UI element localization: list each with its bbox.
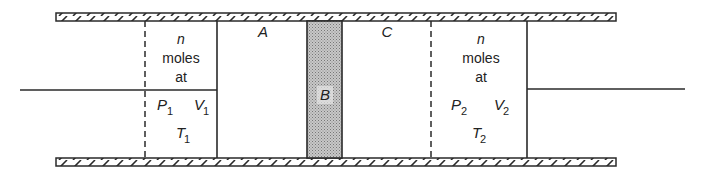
left-moles-label: moles — [162, 50, 199, 66]
left-at-label: at — [175, 69, 187, 85]
right-n-label: n — [477, 31, 485, 47]
region-b-label: B — [320, 86, 330, 103]
right-chamber-label: n moles at P 2 V 2 T 2 — [451, 31, 509, 145]
left-chamber-label: n moles at P 1 V 1 T 1 — [157, 31, 209, 145]
region-a-label: A — [257, 23, 268, 40]
left-pressure-symbol: P — [157, 96, 167, 113]
left-pressure-subscript: 1 — [167, 105, 173, 117]
top-cylinder-wall — [56, 13, 616, 21]
right-pressure-symbol: P — [451, 96, 461, 113]
left-temperature-subscript: 1 — [184, 133, 190, 145]
right-at-label: at — [475, 69, 487, 85]
right-moles-label: moles — [462, 50, 499, 66]
right-temperature-subscript: 2 — [480, 133, 486, 145]
left-volume-subscript: 1 — [203, 105, 209, 117]
bottom-cylinder-wall — [56, 158, 616, 166]
right-volume-subscript: 2 — [503, 105, 509, 117]
left-n-label: n — [177, 31, 185, 47]
piston-cylinder-diagram: n moles at P 1 V 1 T 1 A B C n moles at … — [0, 0, 705, 176]
region-c-label: C — [382, 23, 393, 40]
right-pressure-subscript: 2 — [461, 105, 467, 117]
